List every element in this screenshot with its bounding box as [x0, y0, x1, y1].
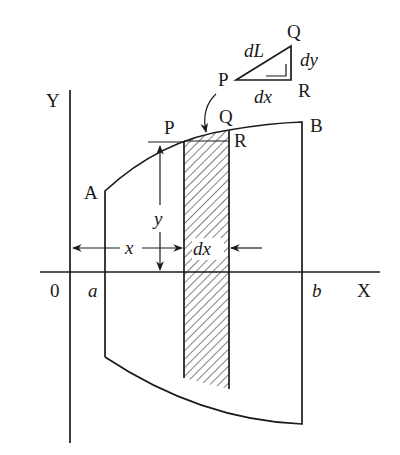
point-a-label: A — [84, 182, 98, 203]
a-bound-label: a — [88, 280, 98, 301]
curved-pointer-arrow — [205, 94, 216, 132]
diagram-canvas: Y X 0 a b A B P Q R y x dx P Q R dL dy d… — [0, 0, 400, 455]
strip-point-p-label: P — [164, 117, 175, 138]
strip-point-r-label: R — [234, 130, 247, 151]
point-b-label: B — [310, 115, 323, 136]
x-distance-label: x — [124, 237, 134, 258]
triangle-vertex-q: Q — [287, 21, 301, 42]
strip-point-q-label: Q — [219, 106, 233, 127]
triangle-vertex-p: P — [218, 69, 229, 90]
triangle-dl-label: dL — [244, 40, 264, 61]
triangle-vertex-r: R — [298, 80, 311, 101]
origin-label: 0 — [50, 280, 60, 301]
y-height-label: y — [152, 208, 163, 229]
hatched-strip — [184, 130, 229, 389]
triangle-dy-label: dy — [300, 49, 319, 70]
triangle-dx-label: dx — [254, 86, 273, 107]
x-axis-label: X — [357, 280, 371, 301]
y-axis-label: Y — [46, 90, 60, 111]
b-bound-label: b — [312, 280, 322, 301]
dx-width-label: dx — [193, 238, 212, 259]
